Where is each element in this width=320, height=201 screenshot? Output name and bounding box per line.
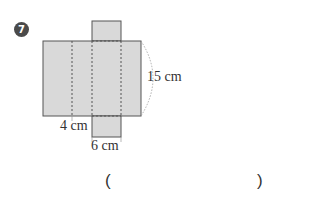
width-left-label: 4 cm xyxy=(60,118,88,134)
height-label: 15 cm xyxy=(147,69,182,85)
answer-close-paren: ) xyxy=(257,171,263,191)
top-flap xyxy=(92,21,121,41)
answer-blank[interactable] xyxy=(115,171,253,193)
bottom-flap xyxy=(92,116,121,137)
width-flap-label: 6 cm xyxy=(91,138,119,154)
answer-open-paren: ( xyxy=(105,171,111,191)
